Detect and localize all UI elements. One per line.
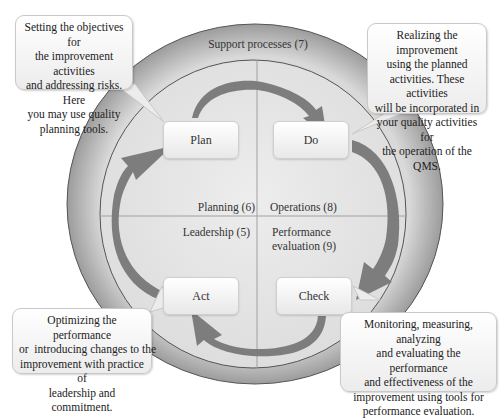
callout-do-line: activities. These activities xyxy=(374,72,480,101)
callout-do-line: using the planned xyxy=(374,57,480,72)
callout-plan-line: and addressing risks. Here xyxy=(22,78,126,107)
callout-do: Realizing the improvement using the plan… xyxy=(367,23,487,114)
step-label-do: Do xyxy=(304,133,319,148)
clause-label-performance-evaluation: Performance evaluation (9) xyxy=(272,225,352,253)
callout-act: Optimizing the performance or introducin… xyxy=(12,308,152,374)
step-label-plan: Plan xyxy=(190,133,211,148)
callout-check: Monitoring, measuring, analyzing and eva… xyxy=(340,312,497,392)
callout-act-line: improvement with practice of xyxy=(19,357,145,386)
step-label-check: Check xyxy=(299,289,330,304)
callout-plan-line: the improvement activities xyxy=(22,49,126,78)
step-label-act: Act xyxy=(192,289,209,304)
callout-do-line: Realizing the improvement xyxy=(374,28,480,57)
callout-check-line: and evaluating the performance xyxy=(347,346,490,375)
callout-plan-line: you may use quality xyxy=(22,107,126,122)
callout-check-line: performance evaluation. xyxy=(347,404,490,419)
callout-act-line: leadership and commitment. xyxy=(19,386,145,415)
clause-label-performance-line1: Performance xyxy=(272,225,352,239)
support-processes-label: Support processes (7) xyxy=(208,38,308,51)
step-box-check: Check xyxy=(276,277,352,315)
step-box-act: Act xyxy=(163,277,239,315)
callout-do-line: will be incorporated in xyxy=(374,101,480,116)
clause-label-planning: Planning (6) xyxy=(180,200,255,214)
callout-check-line: Monitoring, measuring, analyzing xyxy=(347,317,490,346)
callout-act-line: Optimizing the performance xyxy=(19,313,145,342)
step-box-do: Do xyxy=(273,121,349,159)
callout-do-line: your quality activities for xyxy=(374,115,480,144)
callout-plan-line: Setting the objectives for xyxy=(22,20,126,49)
step-box-plan: Plan xyxy=(163,121,239,159)
callout-plan: Setting the objectives for the improveme… xyxy=(15,15,133,90)
clause-label-operations: Operations (8) xyxy=(270,200,350,214)
callout-plan-line: planning tools. xyxy=(22,122,126,137)
clause-label-leadership: Leadership (5) xyxy=(170,225,250,239)
clause-label-performance-line2: evaluation (9) xyxy=(272,239,352,253)
callout-act-line: or introducing changes to the xyxy=(19,342,145,357)
callout-do-line: the operation of the QMS. xyxy=(374,144,480,173)
callout-check-line: improvement using tools for xyxy=(347,390,490,405)
callout-check-line: and effectiveness of the xyxy=(347,375,490,390)
